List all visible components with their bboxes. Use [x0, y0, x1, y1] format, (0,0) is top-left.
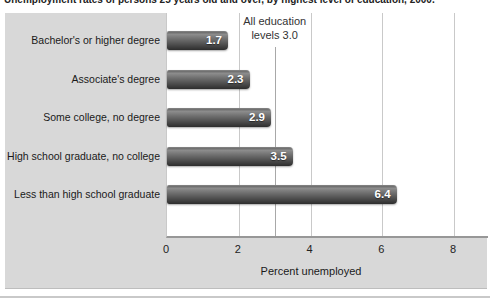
- category-label: Associate's degree: [5, 70, 160, 89]
- x-tick-label-4: 4: [306, 243, 312, 255]
- x-tick-label-0: 0: [163, 243, 169, 255]
- category-label: Bachelor's or higher degree: [5, 31, 160, 50]
- x-tick-label-8: 8: [450, 243, 456, 255]
- chart-panel: All education levels 3.0 1.72.32.93.56.4…: [5, 13, 487, 289]
- bar-2: 2.9: [167, 108, 271, 127]
- bar-value-label: 1.7: [206, 31, 222, 50]
- category-label: Some college, no degree: [5, 108, 160, 127]
- plot-area: All education levels 3.0 1.72.32.93.56.4: [166, 13, 488, 238]
- reference-line-3.0: [275, 47, 276, 236]
- bar-value-label: 3.5: [271, 147, 287, 166]
- chart-title: Unemployment rates of persons 25 years o…: [4, 0, 490, 5]
- x-tick-label-2: 2: [235, 243, 241, 255]
- gridline-8: [454, 13, 455, 236]
- category-label: Less than high school graduate: [5, 185, 160, 204]
- bar-value-label: 2.9: [249, 108, 265, 127]
- x-tick-label-6: 6: [378, 243, 384, 255]
- bottom-separator-line: [0, 296, 490, 298]
- bar-3: 3.5: [167, 147, 293, 166]
- reference-annotation: All education levels 3.0: [243, 15, 306, 42]
- figure: Unemployment rates of persons 25 years o…: [0, 0, 490, 306]
- category-label: High school graduate, no college: [5, 147, 160, 166]
- x-axis-label: Percent unemployed: [166, 265, 456, 277]
- bar-4: 6.4: [167, 185, 397, 204]
- reference-annotation-line1: All education: [243, 15, 306, 29]
- bar-1: 2.3: [167, 70, 250, 89]
- bar-value-label: 6.4: [375, 185, 391, 204]
- bar-value-label: 2.3: [228, 70, 244, 89]
- reference-annotation-line2: levels 3.0: [243, 29, 306, 43]
- bar-0: 1.7: [167, 31, 228, 50]
